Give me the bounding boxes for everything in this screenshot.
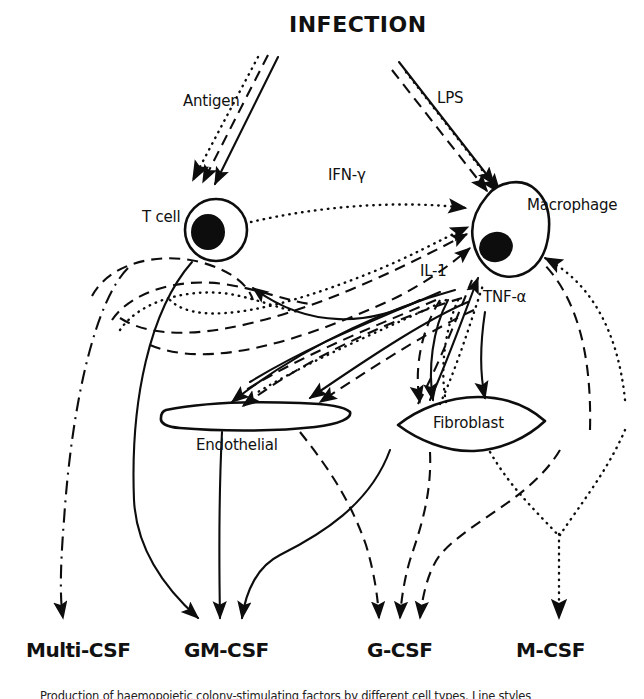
lps-arrow-group [392,62,500,193]
label-tnf-alpha: TNF-α [483,288,526,306]
antigen-arrow-group [193,55,278,184]
label-macrophage: Macrophage [527,196,617,214]
path-macrophage-to-g-csf [420,450,560,618]
path-tcell-loop-dot [120,293,300,331]
path-macrophage-to-fibroblast-solid-2 [481,312,485,398]
label-antigen: Antigen [183,92,240,110]
label-endothelial: Endothelial [196,436,278,454]
cell-tcell [185,199,247,261]
path-fibroblast-to-m-csf-a [490,452,558,535]
figure-canvas: INFECTION Antigen LPS T cell Macrophage … [0,0,644,699]
label-m-csf: M-CSF [516,638,585,662]
path-ifn-gamma [251,204,466,222]
path-solid-to-tcell [253,288,420,319]
figure-caption: Production of haemopoietic colony-stimul… [40,688,610,699]
cell-endothelial [161,402,350,430]
label-g-csf: G-CSF [367,638,432,662]
path-tnf-alpha-to-macrophage [430,278,478,400]
path-macrophage-to-endothelial-dash-2 [320,310,474,402]
label-lps: LPS [437,89,463,107]
path-endothelial-to-g-csf [300,432,379,618]
path-tcell-loop-dash [92,258,253,300]
page-title: INFECTION [289,12,427,37]
label-gm-csf: GM-CSF [184,638,269,662]
label-ifn-gamma: IFN-γ [328,166,366,184]
label-il-1: IL-1 [420,262,447,280]
path-dotted-right-into-macrophage [545,258,625,400]
path-tcell-to-gm-csf [133,262,198,618]
signalling-diagram [0,0,644,699]
path-dashed-right-loop [542,262,590,430]
path-endothelial-to-gm-csf [219,432,222,618]
path-macrophage-to-endothelial-dash [243,298,462,406]
path-fibroblast-to-gm-csf [242,450,390,618]
path-fibroblast-to-m-csf-b [560,430,625,535]
path-dashed-to-macrophage-a [120,234,467,333]
label-fibroblast: Fibroblast [433,414,504,432]
label-tcell: T cell [142,208,181,226]
path-tcell-to-multi-csf [61,268,128,618]
path-fibroblast-to-g-csf [400,452,430,618]
label-multi-csf: Multi-CSF [26,638,130,662]
